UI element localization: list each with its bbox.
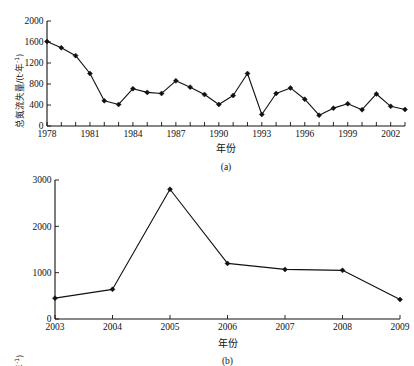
x-axis-tick-label: 1990 [209, 129, 228, 139]
x-axis-tick-label: 1978 [38, 129, 57, 139]
x-axis-tick-label: 2003 [46, 322, 65, 332]
x-axis-tick-label: 1987 [166, 129, 185, 139]
data-point-marker [102, 98, 107, 103]
y-axis-tick-label: 2000 [25, 16, 44, 26]
data-series-line [55, 189, 400, 299]
data-point-marker [53, 296, 58, 301]
data-point-marker [403, 107, 408, 112]
data-point-marker [283, 267, 288, 272]
data-point-marker [188, 85, 193, 90]
panel-caption: (b) [222, 356, 233, 366]
x-axis-tick-label: 2008 [333, 322, 352, 332]
panel-caption: (a) [221, 162, 232, 173]
y-axis-tick-label: 1200 [25, 58, 44, 68]
x-axis-tick-label: 2007 [276, 322, 295, 332]
panel-a-plot-area: 总氮流失量/(t·年-1) 04008001200160020001978198… [0, 0, 414, 180]
panel-a-chart: 0400800120016002000197819811984198719901… [0, 0, 414, 180]
data-series-line [47, 41, 405, 115]
x-axis-tick-label: 2006 [218, 322, 237, 332]
x-axis-tick-label: 2002 [381, 129, 400, 139]
data-point-marker [398, 297, 403, 302]
data-point-marker [145, 90, 150, 95]
x-axis-tick-label: 1981 [80, 129, 99, 139]
panel-a: 总氮流失量/(t·年-1) 04008001200160020001978198… [0, 0, 414, 180]
x-axis-tick-label: 2009 [391, 322, 410, 332]
y-axis-tick-label: 800 [29, 79, 44, 89]
data-point-marker [45, 39, 50, 44]
panel-b-plot-area: 单位面积总氮流失量/(kg·km-2·年-1) 0100020003000200… [0, 175, 414, 366]
x-axis-tick-label: 2005 [161, 322, 180, 332]
y-axis-tick-label: 3000 [33, 175, 52, 185]
y-axis-tick-label: 1600 [25, 37, 44, 47]
panel-b-chart: 0100020003000200320042005200620072008200… [0, 175, 414, 366]
y-axis-tick-label: 400 [29, 100, 44, 110]
data-point-marker [345, 101, 350, 106]
data-point-marker [340, 268, 345, 273]
panel-b: 单位面积总氮流失量/(kg·km-2·年-1) 0100020003000200… [0, 175, 414, 366]
x-axis-tick-label: 1999 [338, 129, 357, 139]
x-axis-title: 年份 [216, 142, 236, 154]
y-axis-tick-label: 2000 [33, 222, 52, 232]
x-axis-tick-label: 2004 [103, 322, 122, 332]
y-axis-tick-label: 1000 [33, 268, 52, 278]
data-point-marker [331, 106, 336, 111]
data-point-marker [59, 45, 64, 50]
data-point-marker [110, 287, 115, 292]
x-axis-tick-label: 1996 [295, 129, 314, 139]
x-axis-title: 年份 [218, 337, 238, 349]
x-axis-tick-label: 1984 [123, 129, 142, 139]
x-axis-tick-label: 1993 [252, 129, 271, 139]
